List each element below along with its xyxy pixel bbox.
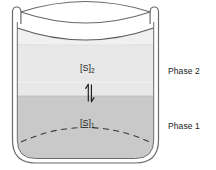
beaker-rim-back-arc (21, 2, 150, 13)
phase-1-caption: Phase 1 (168, 122, 200, 131)
phase-1-fill (10, 96, 160, 166)
species-symbol-lower: [S] (80, 118, 91, 128)
beaker-rim-right-lip (150, 7, 158, 24)
species-subscript-upper: 2 (91, 67, 95, 74)
species-label-phase-1: [S]1 (80, 119, 95, 128)
liquid-column (10, 20, 160, 166)
phase-2-caption: Phase 2 (168, 67, 200, 76)
species-subscript-lower: 1 (91, 122, 95, 129)
beaker-rim-front-arc (21, 12, 150, 23)
two-phase-partition-figure: [S]2 [S]1 Phase 2 Phase 1 (0, 0, 216, 170)
species-symbol-upper: [S] (80, 63, 91, 73)
beaker-diagram (0, 0, 216, 170)
beaker-rim-left-lip (13, 7, 21, 24)
species-label-phase-2: [S]2 (80, 64, 95, 73)
